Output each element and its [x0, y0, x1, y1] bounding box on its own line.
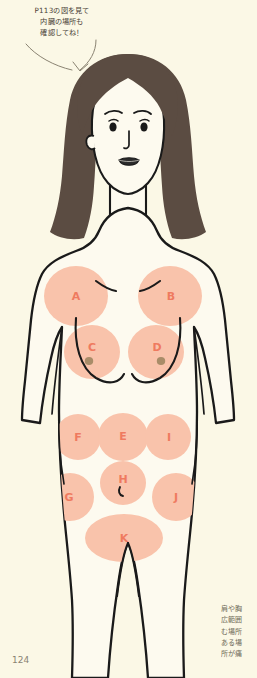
zone-e-epigastrium-label: E — [119, 430, 127, 443]
textbook-page: P113の図を見て 内臓の場所も 確認してね！ 肩や胸 広範囲 む場所 ある場 … — [0, 0, 257, 678]
zone-k-lower-abdomen-label: K — [120, 532, 129, 545]
page-number: 124 — [12, 655, 29, 665]
zone-b-right-shoulder-label: B — [167, 290, 175, 303]
instruction-callout: P113の図を見て 内臓の場所も 確認してね！ — [14, 5, 110, 38]
margin-note-line-5: 所が痛 — [221, 649, 257, 660]
margin-note-line-2: 広範囲 — [221, 615, 257, 626]
callout-line-3: 確認してね！ — [14, 27, 110, 38]
zone-c-left-chest-label: C — [88, 341, 96, 354]
callout-line-2: 内臓の場所も — [14, 16, 110, 27]
callout-arrow — [26, 40, 96, 71]
margin-note-line-3: む場所 — [221, 627, 257, 638]
zone-a-left-shoulder-label: A — [72, 290, 81, 303]
body-diagram-illustration — [0, 0, 257, 678]
zone-f-left-upper-abdomen-label: F — [74, 431, 82, 444]
zone-i-right-upper-abdomen-label: I — [167, 431, 171, 444]
zone-h-periumbilical-label: H — [118, 473, 127, 486]
zone-j-right-lower-abdomen-label: J — [174, 491, 178, 504]
margin-note-line-1: 肩や胸 — [221, 604, 257, 615]
margin-note: 肩や胸 広範囲 む場所 ある場 所が痛 — [221, 604, 257, 661]
callout-line-1: P113の図を見て — [14, 5, 110, 16]
margin-note-line-4: ある場 — [221, 638, 257, 649]
zone-g-left-lower-abdomen-label: G — [64, 491, 73, 504]
zone-d-right-chest-label: D — [152, 341, 161, 354]
